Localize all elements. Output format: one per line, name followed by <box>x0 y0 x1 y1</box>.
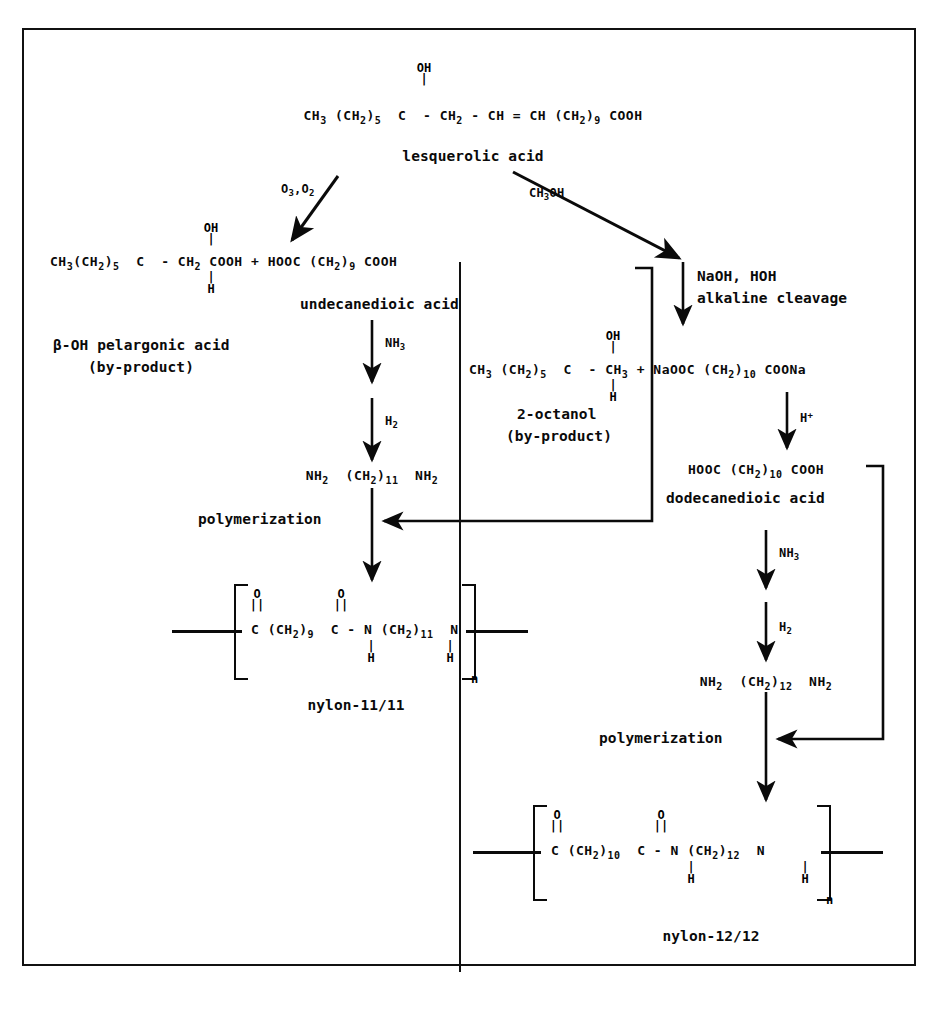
nylon-11-name: nylon-11/11 <box>307 697 404 713</box>
hydrogen-label: H <box>367 652 374 664</box>
amide-nh-1-11: | H <box>367 641 374 664</box>
amide-nh-1-12: | H <box>687 862 694 885</box>
methanolysis-condition: CH3OH <box>529 186 564 202</box>
bond-tick-right-11 <box>466 630 528 633</box>
ozonolysis-products-formula: CH3(CH2)5 C - CH2 COOH + HOOC (CH2)9 COO… <box>50 254 397 272</box>
reagent-nh3-left: NH3 <box>385 336 405 352</box>
nylon-12-backbone-formula: C (CH2)10 C - N (CH2)12 N <box>551 843 765 861</box>
repeat-subscript-12: n <box>826 893 833 907</box>
ozonolysis-condition: O3,O2 <box>281 182 315 198</box>
nylon-11-backbone-formula: C (CH2)9 C - N (CH2)11 N <box>251 622 459 640</box>
amide-nh-2-11: | H <box>446 641 453 664</box>
polymerization-label-right: polymerization <box>599 730 723 746</box>
pelargonic-hydrogen-group: | H <box>207 272 214 295</box>
lesquerolic-hydroxyl-group: OH | <box>417 62 431 85</box>
diagram-page: OH | CH3 (CH2)5 C - CH2 - CH = CH (CH2)9… <box>0 0 947 1017</box>
pelargonic-acid-note: (by-product) <box>88 359 194 375</box>
reagent-h2-right: H2 <box>779 620 792 636</box>
octanol-hydrogen-group: | H <box>609 380 616 403</box>
reagent-nh3-right: NH3 <box>779 546 799 562</box>
diamine-11-formula: NH2 (CH2)11 NH2 <box>306 468 439 486</box>
reagent-h2-left: H2 <box>385 414 398 430</box>
octanol-hydroxyl-group: OH | <box>606 330 620 353</box>
double-bond-glyph: || <box>250 600 264 611</box>
bond-glyph: | <box>606 342 620 353</box>
bond-tick-right-12 <box>821 851 883 854</box>
alkaline-cleavage-line2: alkaline cleavage <box>697 290 847 306</box>
pelargonic-acid-name: β-OH pelargonic acid <box>53 337 230 353</box>
repeat-subscript-11: n <box>471 672 478 686</box>
nylon-12-name: nylon-12/12 <box>662 928 759 944</box>
hydrogen-label: H <box>801 873 808 885</box>
dodecanedioic-acid-name: dodecanedioic acid <box>666 490 825 506</box>
diamine-12-formula: NH2 (CH2)12 NH2 <box>700 674 833 692</box>
double-bond-glyph: || <box>550 821 564 832</box>
hydrogen-label: H <box>446 652 453 664</box>
double-bond-glyph: || <box>654 821 668 832</box>
octanol-name: 2-octanol <box>517 406 596 422</box>
h-label-right: H <box>609 391 616 403</box>
carbonyl-1-12: O || <box>550 809 564 832</box>
bond-tick-left-11 <box>172 630 242 633</box>
octanol-note: (by-product) <box>506 428 612 444</box>
cleavage-products-formula: CH3 (CH2)5 C - CH3 + NaOOC (CH2)10 COONa <box>469 362 806 380</box>
carbonyl-2-12: O || <box>654 809 668 832</box>
bond-glyph: | <box>417 74 431 85</box>
double-bond-glyph: || <box>334 600 348 611</box>
reagent-h-plus: H+ <box>800 410 813 425</box>
h-label-left: H <box>207 283 214 295</box>
pelargonic-hydroxyl-group: OH | <box>204 222 218 245</box>
lesquerolic-acid-name: lesquerolic acid <box>402 148 543 164</box>
dodecanedioic-acid-formula: HOOC (CH2)10 COOH <box>688 462 824 480</box>
carbonyl-1-11: O || <box>250 588 264 611</box>
bond-tick-left-12 <box>473 851 541 854</box>
amide-nh-2-12: | H <box>801 862 808 885</box>
column-divider <box>459 262 461 972</box>
lesquerolic-acid-formula: CH3 (CH2)5 C - CH2 - CH = CH (CH2)9 COOH <box>304 108 643 126</box>
bond-glyph: | <box>204 234 218 245</box>
polymerization-label-left: polymerization <box>198 511 322 527</box>
alkaline-cleavage-line1: NaOH, HOH <box>697 268 776 284</box>
hydrogen-label: H <box>687 873 694 885</box>
carbonyl-2-11: O || <box>334 588 348 611</box>
undecanedioic-acid-name: undecanedioic acid <box>300 296 459 312</box>
